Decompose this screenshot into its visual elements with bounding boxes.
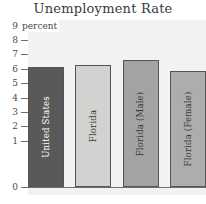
bar-label: Florida (Female) (183, 91, 193, 166)
bar-series: United States Florida Florida (Male) Flo… (28, 20, 206, 187)
y-tick-label: 6 (4, 63, 18, 75)
x-axis-baseline (21, 187, 206, 188)
chart-figure: Unemployment Rate 9 percent 8 7 6 5 4 (0, 0, 206, 204)
bar-united-states[interactable]: United States (28, 67, 64, 187)
bar-florida[interactable]: Florida (75, 65, 111, 187)
y-tick-label: 5 (4, 77, 18, 89)
y-tick-label: 4 (4, 92, 18, 104)
chart-title: Unemployment Rate (0, 1, 206, 16)
y-tick-label: 1 (4, 135, 18, 147)
y-tick-label: 3 (4, 106, 18, 118)
bar-label: Florida (Male) (136, 91, 146, 156)
bar-label: Florida (88, 110, 98, 142)
bar-label: United States (41, 96, 51, 158)
y-tick-label: 9 (4, 20, 18, 32)
plot-area: 9 percent 8 7 6 5 4 3 2 (0, 20, 206, 204)
y-tick-label: 8 (4, 34, 18, 46)
bar-florida-male[interactable]: Florida (Male) (123, 60, 159, 187)
y-tick-label: 2 (4, 120, 18, 132)
y-tick-label: 7 (4, 48, 18, 60)
bar-florida-female[interactable]: Florida (Female) (170, 71, 206, 187)
y-tick-label: 0 (4, 181, 18, 193)
